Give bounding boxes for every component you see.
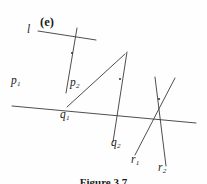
figure-caption: Figure 3.7 <box>0 176 207 184</box>
intersection-p <box>71 52 73 54</box>
line-p1 <box>38 31 96 40</box>
label-subscript: 2 <box>163 167 167 175</box>
line-r2 <box>155 77 166 166</box>
label-subscript: 2 <box>117 142 121 150</box>
label-line-r2: r2 <box>158 162 166 174</box>
figure-drawing <box>0 0 207 184</box>
line-l <box>12 106 196 123</box>
label-subscript: 1 <box>17 80 21 88</box>
label-line-l: l <box>27 24 30 36</box>
label-line-p1: p1 <box>11 75 20 87</box>
label-line-p2: p2 <box>70 77 79 89</box>
part-label: (e) <box>40 16 54 29</box>
intersection-r <box>158 98 160 100</box>
label-line-q1: q1 <box>60 109 69 121</box>
intersection-q <box>119 78 121 80</box>
label-line-q2: q2 <box>111 137 120 149</box>
figure-container: (e) lp1p2q1q2r1r2 Figure 3.7 <box>0 0 207 184</box>
label-subscript: 1 <box>136 159 140 167</box>
lines-group <box>12 28 196 166</box>
label-subscript: 1 <box>66 114 70 122</box>
label-subscript: 2 <box>76 82 80 90</box>
label-line-r1: r1 <box>131 154 139 166</box>
line-q2 <box>113 52 127 142</box>
line-r1 <box>135 78 175 155</box>
